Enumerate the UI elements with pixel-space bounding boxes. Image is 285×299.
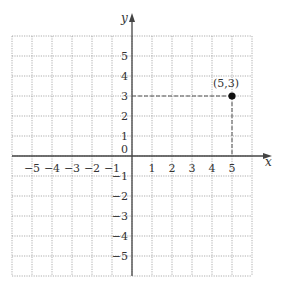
y-tick-label: −5 xyxy=(112,250,128,263)
y-tick-label: 1 xyxy=(121,130,128,143)
y-tick-label: 4 xyxy=(121,70,128,83)
x-tick-label: −2 xyxy=(84,162,100,175)
y-tick-label: −2 xyxy=(112,190,128,203)
y-axis-arrow-icon xyxy=(129,13,135,22)
point-marker xyxy=(228,92,235,99)
y-tick-label: −3 xyxy=(112,210,128,223)
coordinate-plane: x y −5 −4 −3 −2 −1 1 2 3 4 5 5 4 3 2 1 0… xyxy=(0,0,285,299)
y-tick-label: 2 xyxy=(121,110,128,123)
x-tick-label: 5 xyxy=(229,162,236,175)
y-tick-label: −4 xyxy=(112,230,128,243)
x-tick-labels: −5 −4 −3 −2 −1 1 2 3 4 5 xyxy=(24,162,236,175)
x-tick-label: 1 xyxy=(149,162,156,175)
y-tick-label: 3 xyxy=(121,90,128,103)
point-label: (5,3) xyxy=(213,77,239,90)
x-tick-label: 4 xyxy=(209,162,216,175)
x-tick-label: −4 xyxy=(44,162,60,175)
x-axis-label: x xyxy=(265,155,272,169)
x-tick-label: 2 xyxy=(169,162,176,175)
y-tick-label: 5 xyxy=(121,50,128,63)
origin-label: 0 xyxy=(121,143,128,156)
y-tick-label: −1 xyxy=(112,170,128,183)
y-axis-label: y xyxy=(120,11,128,25)
x-tick-label: −3 xyxy=(64,162,80,175)
x-tick-label: −5 xyxy=(24,162,40,175)
x-tick-label: 3 xyxy=(189,162,196,175)
